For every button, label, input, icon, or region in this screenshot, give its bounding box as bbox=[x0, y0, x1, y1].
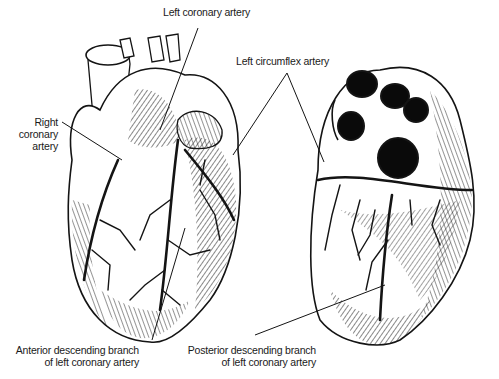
leader-circumflex-posterior bbox=[287, 73, 324, 162]
label-right-coronary-artery: Right coronary artery bbox=[4, 116, 58, 152]
label-line: of left coronary artery bbox=[6, 356, 139, 368]
label-line: Anterior descending branch bbox=[6, 344, 139, 356]
label-left-coronary-artery: Left coronary artery bbox=[163, 6, 250, 18]
label-line: Posterior descending branch bbox=[180, 344, 316, 356]
label-anterior-descending-branch: Anterior descending branch of left coron… bbox=[6, 344, 139, 368]
label-left-circumflex-artery: Left circumflex artery bbox=[236, 55, 329, 67]
label-line: artery bbox=[4, 140, 58, 152]
label-posterior-descending-branch: Posterior descending branch of left coro… bbox=[180, 344, 316, 368]
leader-circumflex-anterior bbox=[233, 73, 287, 155]
label-line: Right bbox=[4, 116, 58, 128]
anterior-heart bbox=[68, 34, 240, 342]
posterior-heart bbox=[311, 67, 474, 345]
label-line: coronary bbox=[4, 128, 58, 140]
label-line: of left coronary artery bbox=[180, 356, 316, 368]
